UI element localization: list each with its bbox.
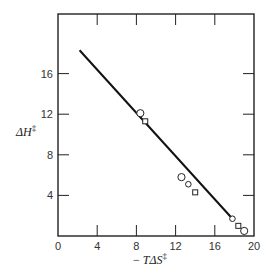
y-tick-label: 8 [47, 149, 53, 161]
data-points [137, 110, 248, 235]
y-axis-label: ΔH‡ [15, 123, 37, 139]
x-axis-label: − TΔS‡ [133, 251, 168, 267]
x-tick-label: 4 [94, 240, 100, 252]
circle-marker [230, 216, 236, 222]
square-marker [193, 190, 198, 195]
x-tick-label: 16 [209, 240, 221, 252]
x-tick-label: 0 [55, 240, 61, 252]
y-tick-label: 12 [41, 108, 53, 120]
y-tick-label: 4 [47, 189, 53, 201]
circle-marker [178, 174, 185, 181]
y-axis-ticks: 481216 [41, 68, 254, 202]
circle-marker [186, 181, 192, 187]
square-marker [236, 223, 241, 228]
enthalpy-entropy-chart: 048121620 481216 ΔH‡ − TΔS‡ [0, 0, 271, 272]
x-tick-label: 8 [133, 240, 139, 252]
plot-frame [58, 14, 254, 236]
circle-marker [137, 110, 144, 117]
circle-marker [241, 227, 248, 234]
x-tick-label: 12 [169, 240, 181, 252]
x-tick-label: 20 [248, 240, 260, 252]
y-tick-label: 16 [41, 68, 53, 80]
fit-line [80, 50, 233, 218]
square-marker [143, 119, 148, 124]
